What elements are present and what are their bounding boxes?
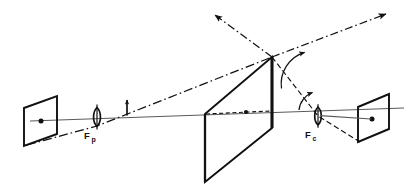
- camera-lens-label: F: [305, 129, 311, 140]
- canvas-background: [0, 0, 404, 187]
- inner-segment-dot: [244, 110, 248, 114]
- projector-plane-center-dot: [39, 119, 44, 124]
- projector-lens-label-subscript: p: [92, 136, 96, 144]
- camera-lens-label-subscript: c: [313, 135, 317, 142]
- projector-lens-label: F: [84, 130, 90, 141]
- optical-ray-diagram: F p F c: [0, 0, 404, 187]
- diagram-canvas: F p F c: [0, 0, 404, 187]
